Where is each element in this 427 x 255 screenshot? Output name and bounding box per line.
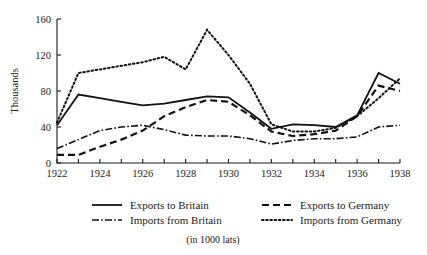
x-tick-label: 1932 xyxy=(261,168,282,179)
y-tick-label: 40 xyxy=(41,122,52,133)
series-line-imports-from-germany xyxy=(57,30,400,132)
chart-axes xyxy=(57,19,400,163)
line-chart: 0408012016019221924192619281930193219341… xyxy=(0,0,427,255)
legend-label: Exports to Germany xyxy=(300,199,390,211)
series-line-imports-from-britain xyxy=(57,125,400,148)
chart-figure: 0408012016019221924192619281930193219341… xyxy=(0,0,427,255)
y-tick-label: 160 xyxy=(35,14,51,25)
x-tick-label: 1938 xyxy=(390,168,411,179)
x-tick-label: 1922 xyxy=(47,168,68,179)
x-tick-label: 1924 xyxy=(89,168,111,179)
x-tick-label: 1934 xyxy=(304,168,326,179)
y-tick-label: 120 xyxy=(35,50,51,61)
x-tick-label: 1926 xyxy=(132,168,153,179)
x-tick-label: 1936 xyxy=(347,168,368,179)
chart-plot-area xyxy=(57,30,400,155)
x-tick-label: 1930 xyxy=(218,168,239,179)
y-tick-label: 80 xyxy=(41,86,52,97)
legend-label: Imports from Germany xyxy=(300,214,403,226)
legend-label: Imports from Britain xyxy=(130,214,222,226)
axis-spines xyxy=(57,19,400,163)
legend-label: Exports to Britain xyxy=(130,199,209,211)
y-axis-title: Thousands xyxy=(9,68,20,114)
x-tick-label: 1928 xyxy=(175,168,196,179)
y-tick-label: 0 xyxy=(46,158,51,169)
chart-footnote: (in 1000 lats) xyxy=(186,234,239,246)
chart-legend: Exports to BritainExports to GermanyImpo… xyxy=(92,199,403,246)
